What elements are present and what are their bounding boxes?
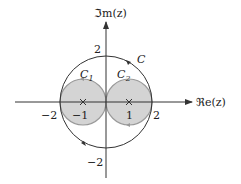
contour-label-c1: C1 bbox=[80, 68, 94, 83]
tick-y-neg2: −2 bbox=[87, 156, 103, 169]
point-label-1: 1 bbox=[126, 109, 133, 122]
contour-label-c2: C2 bbox=[117, 68, 131, 83]
point-label-neg1: −1 bbox=[72, 109, 88, 122]
orientation-arrow-top-icon bbox=[126, 60, 131, 65]
contour-label-c: C bbox=[137, 53, 146, 66]
real-axis-label: ℜe(z) bbox=[196, 96, 226, 109]
tick-x-2: 2 bbox=[153, 109, 160, 122]
tick-y-2: 2 bbox=[94, 43, 101, 56]
imag-axis-label: ℑm(z) bbox=[94, 7, 127, 20]
tick-x-neg2: −2 bbox=[41, 109, 57, 122]
complex-plane-diagram: ℑm(z) ℜe(z) 2 −2 2 −2 −1 1 C C1 C2 bbox=[0, 0, 241, 184]
